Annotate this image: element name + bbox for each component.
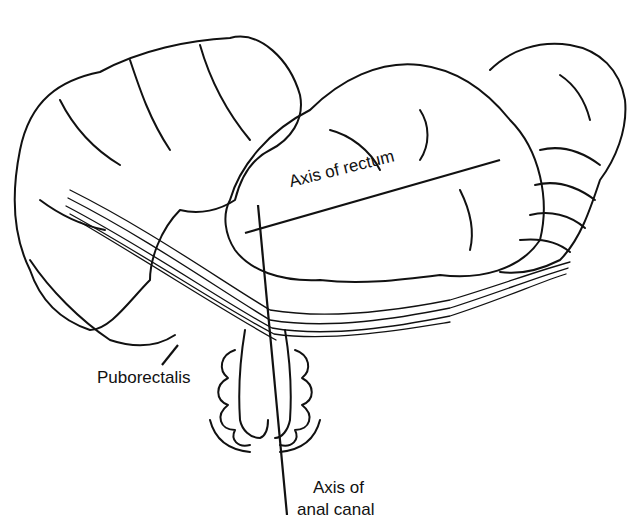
axis-of-anal-canal-label-line1: Axis of [313, 478, 364, 498]
axis-of-anal-canal-label-line2: anal canal [297, 500, 375, 520]
anatomy-diagram: Axis of rectum Puborectalis Axis of anal… [0, 0, 634, 532]
anal-canal-outline [239, 330, 291, 438]
axis-anal-canal-line [258, 205, 287, 515]
pubic-bone-outline [30, 260, 175, 345]
puborectalis-leader-line [162, 345, 178, 365]
rectum-outline [225, 64, 543, 282]
anatomy-illustration [0, 0, 634, 532]
colon-outline [490, 44, 625, 273]
puborectalis-label: Puborectalis [97, 368, 191, 388]
pelvic-structure-outline [15, 37, 301, 330]
